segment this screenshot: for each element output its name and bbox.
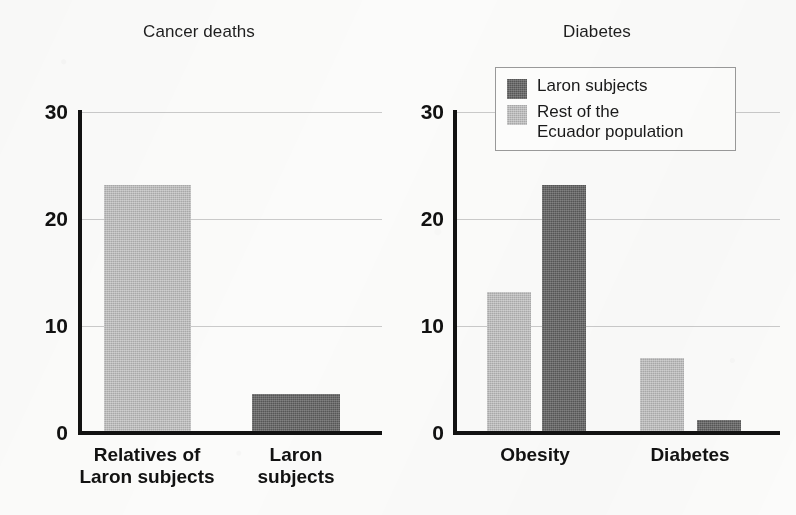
bar-relatives-of-laron-subjects[interactable] [104,185,191,431]
bar-laron-subjects[interactable] [252,394,340,431]
gridline-y-20 [455,219,780,220]
light-swatch-icon [507,105,527,125]
legend-label-rest-of-ecuador-population: Rest of the Ecuador population [537,102,684,141]
gridline-y-30 [80,112,382,113]
bar-obesity-laron-subjects[interactable] [542,185,586,431]
legend-item-laron-subjects[interactable]: Laron subjects [507,76,723,99]
x-category-label-obesity: Obesity [475,444,595,466]
y-tick-label-0: 0 [10,422,68,443]
x-axis-line [453,431,780,435]
bar-diabetes-laron-subjects[interactable] [697,420,741,431]
x-category-label-diabetes: Diabetes [630,444,750,466]
y-axis-line [78,110,82,435]
plot-area-cancer-deaths: 30 20 10 0 Relatives of Laron subjects L… [0,0,398,515]
y-tick-label-0: 0 [386,422,444,443]
x-axis-line [78,431,382,435]
figure-canvas: Cancer deaths 30 20 10 0 Relatives of La… [0,0,796,515]
chart-legend: Laron subjects Rest of the Ecuador popul… [495,67,736,151]
legend-item-rest-of-ecuador-population[interactable]: Rest of the Ecuador population [507,102,723,141]
plot-area-diabetes: 30 20 10 0 Obesity Diabetes Laron subjec… [398,0,796,515]
y-tick-label-10: 10 [10,315,68,336]
y-tick-label-30: 30 [10,101,68,122]
y-axis-line [453,110,457,435]
chart-panel-diabetes: Diabetes 30 20 10 0 Obesity Diabetes [398,0,796,515]
x-category-label-laron-subjects: Laron subjects [226,444,366,489]
bar-diabetes-rest-of-ecuador-population[interactable] [640,358,684,431]
y-tick-label-10: 10 [386,315,444,336]
chart-panel-cancer-deaths: Cancer deaths 30 20 10 0 Relatives of La… [0,0,398,515]
y-tick-label-20: 20 [386,208,444,229]
dark-swatch-icon [507,79,527,99]
bar-obesity-rest-of-ecuador-population[interactable] [487,292,531,431]
y-tick-label-20: 20 [10,208,68,229]
y-tick-label-30: 30 [386,101,444,122]
legend-label-laron-subjects: Laron subjects [537,76,648,96]
x-category-label-relatives-of-laron-subjects: Relatives of Laron subjects [47,444,247,489]
